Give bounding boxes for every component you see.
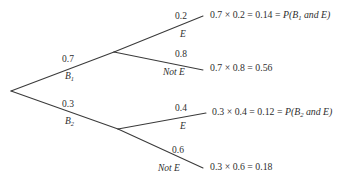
outcome-row-2-expression: 0.7 × 0.8 = 0.56 xyxy=(210,62,272,73)
outcome-row-1: 0.7 × 0.2 = 0.14 = P(B1 and E) xyxy=(210,10,330,20)
branch-label-b2-event-subscript: 2 xyxy=(71,120,74,127)
branch-label-b1-e-event: E xyxy=(180,30,186,40)
outcome-row-1-expression: 0.7 × 0.2 = 0.14 = xyxy=(210,9,283,20)
branch-label-b1-not-e-probability: 0.8 xyxy=(175,50,187,60)
outcome-row-4: 0.3 × 0.6 = 0.18 xyxy=(210,162,272,172)
branch-label-b2-e-event: E xyxy=(180,122,186,132)
branch-label-b2-not-e-probability: 0.6 xyxy=(172,146,184,156)
outcome-row-3-expression: 0.3 × 0.4 = 0.12 = xyxy=(212,106,285,117)
branch-line-b2-to-e xyxy=(118,113,206,129)
outcome-row-1-notation-subscript: 1 xyxy=(298,14,301,21)
branch-label-b2-event-text: B xyxy=(65,116,71,126)
outcome-row-3-notation-suffix: and E) xyxy=(303,106,332,117)
branch-label-b1-event-subscript: 1 xyxy=(71,75,74,82)
branch-label-b1-e-probability: 0.2 xyxy=(175,12,187,22)
outcome-row-1-notation-suffix: and E) xyxy=(301,9,330,20)
outcome-row-1-notation-prefix: P(B xyxy=(283,9,298,20)
branch-label-b1-not-e-event: Not E xyxy=(163,68,185,78)
outcome-row-3-notation-subscript: 2 xyxy=(300,111,303,118)
branch-label-b2-not-e-event: Not E xyxy=(158,164,180,174)
branch-label-b2-e-probability: 0.4 xyxy=(175,104,187,114)
branch-line-b1-to-e xyxy=(114,16,203,52)
branch-label-b1-event: B1 xyxy=(65,72,74,82)
tree-branch-lines xyxy=(0,0,362,183)
branch-label-b2-probability: 0.3 xyxy=(62,100,74,110)
probability-tree-diagram: 0.7 B1 0.3 B2 0.2 E 0.8 Not E 0.4 E 0.6 … xyxy=(0,0,362,183)
outcome-row-3: 0.3 × 0.4 = 0.12 = P(B2 and E) xyxy=(212,107,332,117)
branch-label-b1-probability: 0.7 xyxy=(62,55,74,65)
branch-line-b1-to-not-e xyxy=(114,52,203,70)
branch-label-b1-event-text: B xyxy=(65,71,71,81)
outcome-row-2: 0.7 × 0.8 = 0.56 xyxy=(210,63,272,73)
outcome-row-3-notation-prefix: P(B xyxy=(285,106,300,117)
outcome-row-4-expression: 0.3 × 0.6 = 0.18 xyxy=(210,161,272,172)
branch-label-b2-event: B2 xyxy=(65,117,74,127)
